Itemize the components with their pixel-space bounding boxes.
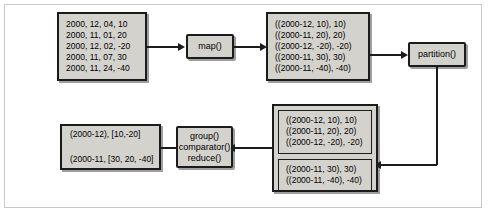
output-record-line: (2000-12), [10,-20] — [70, 129, 152, 140]
mapped-pair-line: ((2000-12, -20), -20) — [275, 41, 362, 52]
edge-reduce-to-output — [160, 147, 178, 149]
group-comparator-reduce-node[interactable]: group() comparator() reduce() — [176, 126, 233, 168]
partition-group-line: ((2000-11, 30), 30) — [286, 164, 365, 175]
edge-partition-to-partitions-vertical — [436, 67, 438, 165]
partition-group-1: ((2000-12, 10), 10) ((2000-11, 20), 20) … — [278, 110, 372, 154]
mapped-pair-line: ((2000-11, 30), 30) — [275, 52, 362, 63]
diagram-canvas: 2000, 12, 04, 10 2000, 11, 01, 20 2000, … — [0, 0, 488, 216]
input-record-line: 2000, 12, 02, -20 — [66, 41, 139, 52]
mapped-pairs-box: ((2000-12, 10), 10) ((2000-11, 20), 20) … — [266, 12, 370, 81]
edge-partition-to-partitions-horizontal — [379, 164, 437, 166]
partition-group-line: ((2000-11, -40), -40) — [286, 175, 365, 186]
partition-group-line: ((2000-12, -20), -20) — [286, 137, 365, 148]
output-record-line: (2000-11, [30, 20, -40] — [70, 154, 152, 165]
partition-group-line: ((2000-12, 10), 10) — [286, 115, 365, 126]
input-record-line: 2000, 12, 04, 10 — [66, 19, 139, 30]
map-function-label: map() — [198, 41, 222, 52]
partition-group-2: ((2000-11, 30), 30) ((2000-11, -40), -40… — [278, 159, 372, 191]
output-records-box: (2000-12), [10,-20] (2000-11, [30, 20, -… — [60, 124, 161, 170]
map-function-node[interactable]: map() — [186, 34, 234, 59]
edge-partitions-to-reduce — [232, 147, 272, 149]
input-record-line: 2000, 11, 24, -40 — [66, 63, 139, 74]
mapped-pair-line: ((2000-11, 20), 20) — [275, 30, 362, 41]
mapped-pair-line: ((2000-11, -40), -40) — [275, 63, 362, 74]
reduce-function-label: reduce() — [188, 153, 222, 164]
partition-function-node[interactable]: partition() — [408, 42, 466, 67]
partition-function-label: partition() — [418, 49, 456, 60]
edge-input-to-map-arrowhead — [178, 43, 185, 51]
comparator-function-label: comparator() — [179, 142, 231, 153]
partition-group-line: ((2000-11, 20), 20) — [286, 126, 365, 137]
input-record-line: 2000, 11, 07, 30 — [66, 52, 139, 63]
partitioned-groups-box: ((2000-12, 10), 10) ((2000-11, 20), 20) … — [272, 104, 378, 192]
edge-mapped-to-partition — [370, 54, 404, 56]
edge-mapped-to-partition-arrowhead — [401, 51, 408, 59]
input-records-box: 2000, 12, 04, 10 2000, 11, 01, 20 2000, … — [57, 12, 147, 81]
edge-input-to-map — [147, 46, 181, 48]
input-record-line: 2000, 11, 01, 20 — [66, 30, 139, 41]
group-function-label: group() — [190, 131, 219, 142]
mapped-pair-line: ((2000-12, 10), 10) — [275, 19, 362, 30]
